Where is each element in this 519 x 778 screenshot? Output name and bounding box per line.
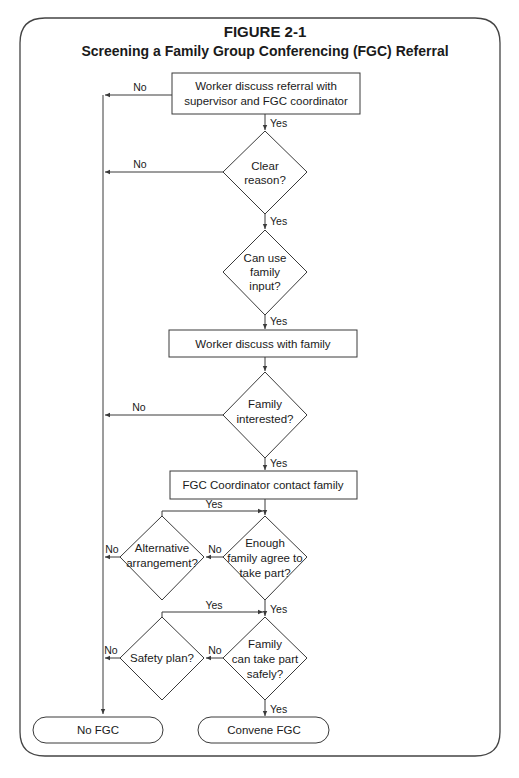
edge-label-no: No: [208, 644, 222, 656]
edge-label-no: No: [132, 401, 146, 413]
svg-text:Worker discuss referral with: Worker discuss referral with: [195, 80, 337, 92]
edge-alternative-yes: [162, 511, 263, 516]
edge-label-no: No: [133, 81, 147, 93]
edge-label-yes: Yes: [270, 457, 287, 469]
node-safety-plan: Safety plan?: [120, 617, 204, 700]
flowchart-figure: FIGURE 2-1 Screening a Family Group Conf…: [0, 0, 519, 778]
svg-text:input?: input?: [249, 280, 280, 292]
edge-label-yes: Yes: [270, 117, 287, 129]
edge-label-yes: Yes: [270, 315, 287, 327]
svg-text:Alternative: Alternative: [135, 542, 189, 554]
svg-text:Clear: Clear: [251, 160, 279, 172]
terminal-convene-fgc: Convene FGC: [198, 717, 329, 743]
svg-text:FGC Coordinator contact family: FGC Coordinator contact family: [182, 479, 343, 491]
svg-text:No FGC: No FGC: [77, 724, 119, 736]
svg-text:take part?: take part?: [239, 567, 290, 579]
edge-label-yes: Yes: [205, 498, 222, 510]
node-alternative-arrangement: Alternative arrangement?: [120, 516, 204, 600]
svg-text:Worker discuss with family: Worker discuss with family: [195, 338, 331, 350]
terminal-no-fgc: No FGC: [33, 717, 163, 743]
svg-text:Safety plan?: Safety plan?: [130, 652, 194, 664]
svg-text:safely?: safely?: [247, 668, 283, 680]
edge-label-yes: Yes: [270, 703, 287, 715]
svg-text:family: family: [250, 266, 280, 278]
svg-text:can take part: can take part: [232, 653, 299, 665]
node-family-take-part-safely: Family can take part safely?: [223, 617, 307, 700]
svg-text:Convene FGC: Convene FGC: [227, 724, 301, 736]
edge-label-no: No: [104, 644, 118, 656]
svg-text:interested?: interested?: [237, 413, 294, 425]
edge-label-no: No: [208, 543, 222, 555]
edge-label-yes: Yes: [270, 215, 287, 227]
svg-text:family agree to: family agree to: [227, 552, 302, 564]
node-worker-discuss-family: Worker discuss with family: [169, 330, 357, 357]
edge-label-yes: Yes: [205, 599, 222, 611]
figure-title: Screening a Family Group Conferencing (F…: [81, 43, 448, 59]
node-enough-family-agree: Enough family agree to take part?: [223, 516, 307, 600]
edge-label-no: No: [133, 158, 147, 170]
node-clear-reason: Clear reason?: [223, 131, 307, 214]
svg-text:reason?: reason?: [244, 174, 286, 186]
svg-text:Family: Family: [248, 398, 282, 410]
svg-text:arrangement?: arrangement?: [126, 557, 198, 569]
node-can-use-family-input: Can use family input?: [223, 230, 307, 315]
edge-label-yes: Yes: [270, 603, 287, 615]
svg-text:Enough: Enough: [245, 537, 285, 549]
node-coordinator-contact: FGC Coordinator contact family: [170, 471, 357, 499]
svg-text:Can use: Can use: [244, 252, 287, 264]
figure-label: FIGURE 2-1: [224, 23, 307, 40]
edge-safety-plan-yes: [162, 612, 263, 617]
node-family-interested: Family interested?: [223, 372, 307, 458]
edge-label-no: No: [105, 543, 119, 555]
svg-text:supervisor and FGC coordinator: supervisor and FGC coordinator: [184, 95, 348, 107]
svg-text:Family: Family: [248, 638, 282, 650]
node-worker-discuss-referral: Worker discuss referral with supervisor …: [172, 73, 360, 114]
